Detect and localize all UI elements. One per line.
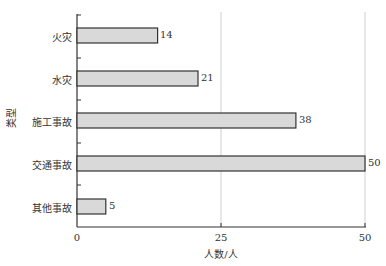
y-axis-label: 类型 [3, 108, 18, 128]
x-tick-label: 25 [215, 232, 228, 243]
bar-flood [77, 71, 198, 86]
bar-fire [77, 28, 158, 43]
data-label: 50 [368, 157, 381, 168]
category-label: 水灾 [52, 72, 72, 87]
category-label: 交通事故 [32, 157, 72, 172]
category-label: 施工事故 [32, 114, 72, 129]
data-label: 5 [109, 200, 115, 211]
x-tick-label: 0 [74, 232, 80, 243]
bar-other [77, 199, 106, 214]
x-tick-label: 50 [359, 232, 372, 243]
category-label: 其他事故 [32, 200, 72, 215]
bar-chart: 类型 火灾 水灾 施工事故 交通事故 其他事故 14 21 38 50 5 0 … [0, 0, 386, 266]
data-label: 38 [299, 114, 312, 125]
bar-traffic [77, 156, 365, 171]
x-axis-label: 人数/人 [204, 246, 237, 261]
bar-construction [77, 113, 296, 128]
category-label: 火灾 [52, 29, 72, 44]
data-label: 21 [201, 72, 214, 83]
data-label: 14 [160, 29, 173, 40]
